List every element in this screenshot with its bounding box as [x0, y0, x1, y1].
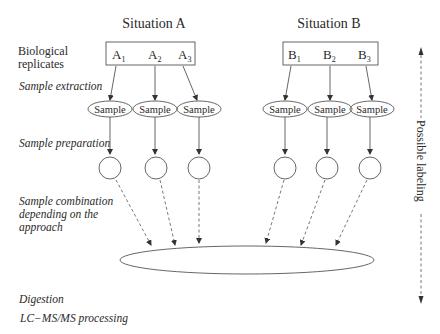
workflow-diagram: Situation A Situation B Biological repli… [0, 0, 440, 334]
digestion-label: Digestion [18, 293, 64, 306]
combination-arrow-b2 [301, 180, 325, 245]
sample-extraction-label: Sample extraction [19, 80, 103, 93]
labeling-arrow-down-head-icon [419, 296, 424, 304]
situation-a-title: Situation A [122, 16, 186, 31]
combination-arrow-b1 [266, 180, 284, 243]
sample-label-b1: Sample [269, 104, 301, 115]
sample-combination-label-line2: depending on the [19, 208, 98, 221]
replicate-a3: A3 [178, 47, 191, 64]
combination-arrow-a1 [116, 180, 151, 245]
lcms-processing-label: LC−MS/MS processing [19, 312, 128, 325]
sample-label-a1: Sample [94, 104, 126, 115]
extraction-arrow-b3 [366, 66, 372, 100]
replicate-a2: A2 [148, 47, 161, 64]
sample-label-a2: Sample [139, 104, 171, 115]
sample-combination-label-line3: approach [19, 221, 63, 234]
replicate-b2: B2 [323, 47, 336, 64]
biological-replicates-label-line1: Biological [18, 44, 69, 58]
prepared-sample-circle-a1 [99, 157, 121, 179]
replicate-b1: B1 [288, 47, 301, 64]
extraction-arrow-b1 [285, 66, 291, 100]
replicate-a1: A1 [112, 47, 125, 64]
prepared-sample-circle-a2 [145, 157, 167, 179]
replicate-b3: B3 [358, 47, 371, 64]
sample-combination-label-line1: Sample combination [19, 195, 113, 208]
labeling-arrow-up-head-icon [419, 47, 424, 55]
prepared-sample-circle-b3 [359, 157, 381, 179]
combination-arrow-a2 [160, 180, 175, 245]
extraction-arrow-a3 [183, 66, 197, 100]
prepared-sample-circle-b2 [316, 157, 338, 179]
sample-preparation-label: Sample preparation [19, 137, 110, 150]
sample-label-b2: Sample [314, 104, 346, 115]
combination-arrow-b3 [336, 180, 367, 245]
extraction-arrow-a1 [110, 66, 116, 100]
prepared-sample-circle-a3 [188, 157, 210, 179]
possible-labeling-label: Possible labeling [414, 120, 428, 202]
biological-replicates-label-line2: replicates [18, 57, 64, 71]
prepared-sample-circle-b1 [274, 157, 296, 179]
sample-label-a3: Sample [183, 104, 215, 115]
situation-b-title: Situation B [297, 16, 360, 31]
combined-sample-ellipse [120, 246, 374, 274]
sample-label-b3: Sample [356, 104, 388, 115]
